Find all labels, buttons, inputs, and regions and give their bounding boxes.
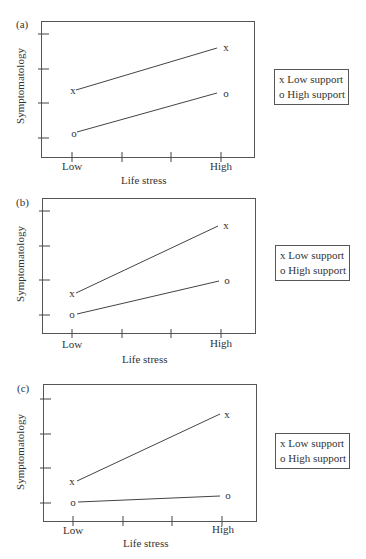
- x-tick-high: High: [212, 523, 234, 535]
- x-tick-low: Low: [63, 524, 83, 536]
- series-low-support-line: [77, 414, 220, 481]
- marker-x-high: x: [224, 408, 230, 420]
- legend-high-support: o High support: [280, 451, 345, 466]
- marker-x-low: x: [69, 475, 75, 487]
- x-axis-label: Life stress: [123, 537, 169, 549]
- legend: x Low support o High support: [275, 433, 350, 469]
- legend-low-support: x Low support: [280, 436, 345, 451]
- marker-o-high: o: [225, 489, 231, 501]
- plot-area: x x o o: [0, 0, 366, 559]
- panel-c: (c) Symptomatology x x o o Low High Life…: [0, 0, 366, 559]
- marker-o-low: o: [70, 496, 76, 508]
- series-high-support-line: [78, 496, 220, 502]
